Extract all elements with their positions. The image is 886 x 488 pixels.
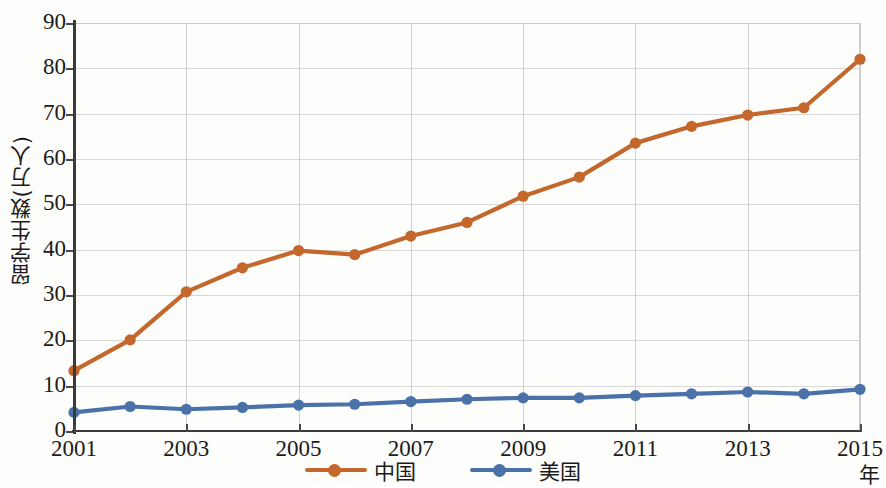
y-axis-tick-label: 20 [30,327,66,350]
data-point-marker [405,230,416,241]
data-point-marker [237,402,248,413]
legend-item: 美国 [470,455,581,485]
data-point-marker [798,102,809,113]
legend-item: 中国 [305,455,416,485]
x-axis-tick [635,424,637,432]
y-axis-line [73,20,76,434]
x-axis-tick [748,424,750,432]
data-point-marker [181,286,192,297]
x-axis-tick [299,424,301,432]
data-point-marker [574,172,585,183]
x-axis-line [72,430,862,432]
y-axis-tick-label: 80 [30,55,66,78]
y-axis-tick-label: 40 [30,237,66,260]
x-axis-tick [860,424,862,432]
gridline-vertical [860,23,861,431]
chart-legend: 中国美国 [0,455,886,485]
data-point-marker [854,384,865,395]
data-point-marker [125,334,136,345]
y-axis-tick-label: 60 [30,146,66,169]
data-point-marker [686,121,697,132]
series-line [74,59,860,370]
data-point-marker [237,262,248,273]
data-point-marker [742,386,753,397]
y-axis-tick-label: 10 [30,373,66,396]
x-axis-tick [411,424,413,432]
data-point-marker [630,138,641,149]
y-axis-tick-label: 30 [30,282,66,305]
x-axis-tick [74,424,76,432]
data-point-marker [854,54,865,65]
data-point-marker [293,400,304,411]
data-point-marker [461,394,472,405]
data-point-marker [742,109,753,120]
data-point-marker [518,191,529,202]
legend-label: 中国 [374,455,416,485]
series-layer [74,23,860,431]
data-point-marker [293,245,304,256]
plot-area [74,23,860,431]
y-axis-tick-label: 70 [30,101,66,124]
data-point-marker [686,388,697,399]
legend-label: 美国 [539,455,581,485]
y-axis-tick-label: 50 [30,191,66,214]
data-point-marker [630,390,641,401]
data-point-marker [349,249,360,260]
legend-swatch-icon [305,463,367,477]
y-axis-tick-label: 90 [30,10,66,33]
data-point-marker [461,217,472,228]
data-point-marker [405,396,416,407]
data-point-marker [518,392,529,403]
legend-swatch-icon [470,463,532,477]
data-point-marker [349,399,360,410]
data-point-marker [125,401,136,412]
data-point-marker [574,392,585,403]
data-point-marker [798,388,809,399]
x-axis-tick [186,424,188,432]
x-axis-tick [523,424,525,432]
data-point-marker [181,404,192,415]
